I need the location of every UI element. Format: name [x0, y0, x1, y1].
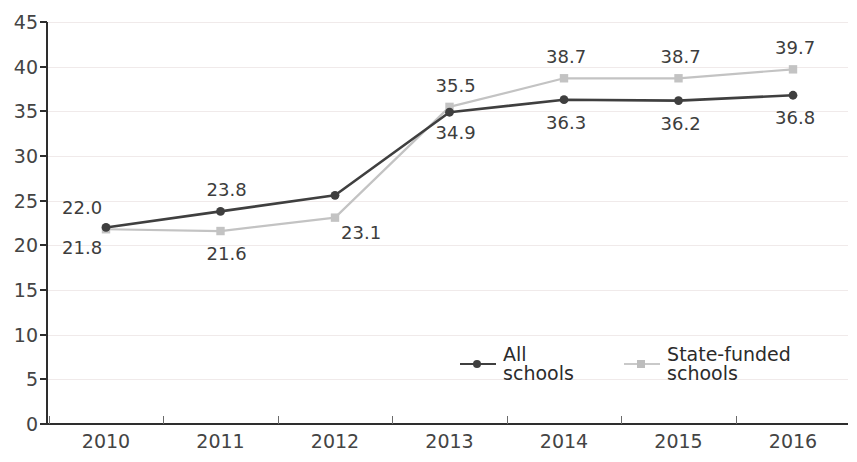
gridline [48, 67, 848, 68]
gridline [48, 22, 848, 23]
y-axis-tick-label: 15 [0, 281, 38, 300]
x-axis-tick [392, 416, 393, 424]
data-point-label: 23.8 [207, 181, 247, 199]
data-point-label: 38.7 [546, 48, 586, 66]
x-axis-tick-label: 2010 [46, 432, 166, 451]
data-point-marker[interactable] [674, 74, 682, 82]
legend-marker-circle-icon [460, 358, 494, 370]
gridline [48, 335, 848, 336]
legend-label-all-schools: All schools [503, 345, 598, 383]
data-point-label: 23.1 [341, 224, 381, 242]
y-axis-tick-label: 45 [0, 13, 38, 32]
y-axis-tick [40, 21, 47, 23]
y-axis-tick [40, 334, 47, 336]
y-axis-tick-label: 5 [0, 370, 38, 389]
data-point-marker[interactable] [560, 74, 568, 82]
series-plot-layer [0, 0, 857, 462]
data-point-marker[interactable] [560, 95, 569, 104]
y-axis-tick-label: 25 [0, 192, 38, 211]
gridline [48, 111, 848, 112]
y-axis-tick [40, 289, 47, 291]
data-point-label: 36.2 [661, 115, 701, 133]
y-axis-tick-label: 40 [0, 58, 38, 77]
y-axis-tick-label: 30 [0, 147, 38, 166]
data-point-label: 38.7 [661, 48, 701, 66]
y-axis-tick [40, 378, 47, 380]
y-axis-tick [40, 155, 47, 157]
y-axis-tick [40, 200, 47, 202]
legend-marker-square-icon [624, 358, 658, 370]
x-axis-tick [278, 416, 279, 424]
chart-legend: All schools State-funded schools [460, 345, 857, 383]
x-axis-tick-label: 2015 [619, 432, 739, 451]
data-point-marker[interactable] [216, 227, 224, 235]
y-axis-line [46, 22, 48, 424]
y-axis-tick-label: 35 [0, 102, 38, 121]
x-axis-tick-label: 2013 [390, 432, 510, 451]
line-chart: 051015202530354045 201020112012201320142… [0, 0, 857, 462]
data-point-marker[interactable] [102, 223, 111, 232]
data-point-marker[interactable] [102, 225, 110, 233]
y-axis-tick-label: 10 [0, 326, 38, 345]
y-axis-tick [40, 110, 47, 112]
x-axis-tick [507, 416, 508, 424]
data-point-label: 21.8 [62, 239, 102, 257]
y-axis-tick-label: 0 [0, 415, 38, 434]
gridline [48, 156, 848, 157]
data-point-label: 21.6 [207, 245, 247, 263]
x-axis-line [46, 423, 848, 425]
gridline [48, 290, 848, 291]
y-axis-tick [40, 66, 47, 68]
gridline [48, 245, 848, 246]
y-axis-tick [40, 244, 47, 246]
legend-label-state-funded-schools: State-funded schools [667, 345, 857, 383]
data-point-marker[interactable] [331, 191, 340, 200]
data-point-label: 35.5 [436, 77, 476, 95]
data-point-marker[interactable] [789, 91, 798, 100]
legend-item-state-funded-schools[interactable]: State-funded schools [624, 345, 857, 383]
x-axis-tick-label: 2011 [161, 432, 281, 451]
data-point-label: 34.9 [436, 124, 476, 142]
y-axis-tick-label: 20 [0, 236, 38, 255]
data-point-marker[interactable] [216, 207, 225, 216]
legend-item-all-schools[interactable]: All schools [460, 345, 598, 383]
data-point-marker[interactable] [445, 103, 453, 111]
data-point-label: 22.0 [62, 199, 102, 217]
gridline [48, 201, 848, 202]
x-axis-tick-label: 2012 [275, 432, 395, 451]
data-point-label: 36.3 [546, 114, 586, 132]
data-point-marker[interactable] [331, 213, 339, 221]
data-point-label: 39.7 [775, 39, 815, 57]
data-point-marker[interactable] [674, 96, 683, 105]
x-axis-tick [736, 416, 737, 424]
x-axis-tick [621, 416, 622, 424]
x-axis-tick [163, 416, 164, 424]
x-axis-tick-label: 2014 [504, 432, 624, 451]
x-axis-tick-label: 2016 [733, 432, 853, 451]
data-point-label: 36.8 [775, 109, 815, 127]
x-axis-tick [49, 416, 50, 424]
